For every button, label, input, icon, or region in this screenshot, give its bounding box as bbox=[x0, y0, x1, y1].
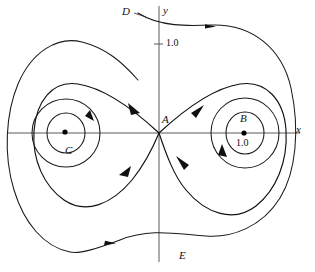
label-y-tick: 1.0 bbox=[166, 38, 179, 48]
center-point-c-dot bbox=[62, 129, 67, 134]
label-b-value: 1.0 bbox=[236, 138, 249, 148]
arrowhead-sep-lower-right bbox=[176, 156, 189, 170]
arrowhead-sep-lower-left bbox=[119, 166, 131, 177]
arrowhead-orbit-right bbox=[218, 144, 227, 157]
label-c: C bbox=[65, 145, 72, 156]
label-x-axis: x bbox=[296, 124, 301, 135]
leader-line-d bbox=[134, 13, 146, 17]
phase-portrait-figure: D y 1.0 A B 1.0 C x E bbox=[0, 0, 315, 272]
arrowhead-sep-upper-right bbox=[191, 105, 204, 118]
arrowhead-outer-bottom bbox=[104, 241, 116, 246]
arrowhead-sep-upper-left bbox=[128, 103, 140, 115]
label-e: E bbox=[179, 250, 186, 261]
center-point-b-dot bbox=[241, 130, 246, 135]
axes-group bbox=[8, 6, 300, 262]
label-d: D bbox=[122, 6, 130, 17]
label-b: B bbox=[240, 113, 247, 124]
label-a: A bbox=[162, 114, 169, 125]
label-y-axis: y bbox=[163, 5, 168, 16]
phase-portrait-canvas bbox=[0, 0, 315, 272]
